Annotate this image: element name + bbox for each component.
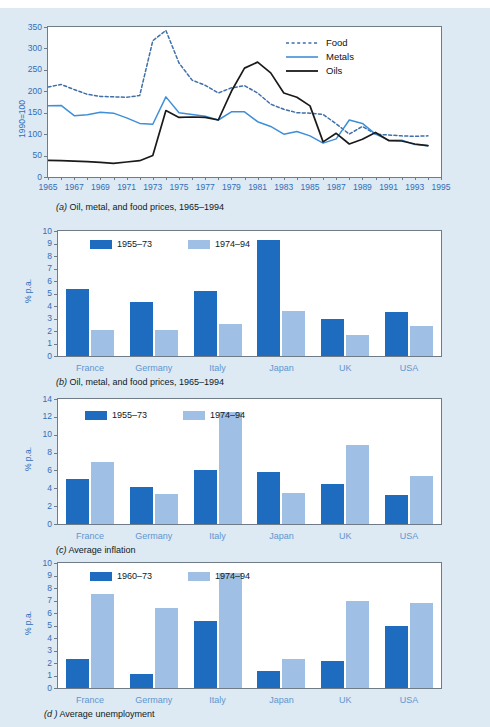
fig-a-caption: (a) Oil, metal, and food prices, 1965–19… — [56, 203, 224, 212]
x-tick-mark — [192, 177, 193, 180]
fig-b-legend: 1955–73 1974–94 — [90, 239, 250, 249]
x-tick-mark — [402, 177, 403, 180]
y-tick-label: 9 — [20, 571, 52, 580]
bar-italy-dark — [194, 470, 217, 524]
legend-label-metals: Metals — [326, 52, 354, 62]
y-tick-label: 300 — [10, 44, 42, 53]
y-tick-label: 8 — [20, 448, 52, 457]
fig-a-legend: Food Metals Oils — [285, 36, 354, 78]
y-tick-label: 7 — [20, 264, 52, 273]
y-tick-label: 10 — [20, 559, 52, 568]
bar-usa-dark — [385, 495, 408, 524]
bar-uk-dark — [321, 484, 344, 524]
x-tick-mark — [114, 177, 115, 180]
legend-item-metals: Metals — [285, 50, 354, 64]
bar-usa-dark — [385, 312, 408, 356]
x-tick-mark — [100, 177, 101, 180]
bar-uk-light — [346, 601, 369, 689]
y-tick-label: 1 — [20, 339, 52, 348]
y-tick-label: 5 — [20, 289, 52, 298]
y-tick-label: 250 — [10, 65, 42, 74]
fig-c-legend: 1955–73 1974–94 — [85, 410, 245, 420]
bar-usa-dark — [385, 626, 408, 689]
bar-japan-dark — [257, 472, 280, 524]
y-tick-label: 6 — [20, 277, 52, 286]
fig-d-caption-label: (d ) — [44, 709, 58, 719]
y-tick-label: 4 — [20, 302, 52, 311]
category-label-usa: USA — [369, 364, 449, 373]
y-tick-label: 8 — [20, 252, 52, 261]
x-tick-mark — [441, 177, 442, 180]
dashed-line-icon — [285, 38, 319, 48]
fig-a-caption-label: (a) — [56, 202, 67, 212]
bar-usa-light — [410, 476, 433, 524]
legend-item-series1: 1960–73 — [90, 571, 152, 581]
bar-italy-light — [219, 412, 242, 524]
y-tick-label: 3 — [20, 646, 52, 655]
x-tick-mark — [218, 177, 219, 180]
fig-b-caption: (b) Oil, metal, and food prices, 1965–19… — [56, 378, 224, 387]
y-tick-label: 10 — [20, 227, 52, 236]
legend-swatch-dark — [90, 572, 112, 581]
y-tick-label: 0 — [20, 352, 52, 361]
y-tick-label: 4 — [20, 634, 52, 643]
x-tick-mark — [284, 177, 285, 180]
bar-uk-dark — [321, 661, 344, 689]
fig-a-series-svg — [48, 27, 441, 177]
bar-japan-light — [282, 311, 305, 356]
y-tick-label: 2 — [20, 659, 52, 668]
y-tick-label: 12 — [20, 412, 52, 421]
x-tick-mark — [258, 177, 259, 180]
legend-label-series2: 1974–94 — [210, 410, 245, 420]
series-line-metals — [48, 97, 428, 146]
bar-japan-light — [282, 659, 305, 688]
fig-c-caption-label: (c) — [56, 545, 67, 555]
x-tick-label: 1995 — [425, 183, 457, 192]
bar-germany-dark — [130, 487, 153, 525]
x-tick-mark — [166, 177, 167, 180]
bar-france-dark — [66, 659, 89, 688]
legend-item-series2: 1974–94 — [183, 410, 245, 420]
bar-uk-light — [346, 445, 369, 525]
figure-c-bar-chart: % p.a. 02468101214 1955–73 1974–94 Franc… — [0, 394, 490, 554]
x-tick-mark — [349, 177, 350, 180]
x-tick-mark — [61, 177, 62, 180]
y-tick-label: 350 — [10, 23, 42, 32]
fig-b-caption-text: Oil, metal, and food prices, 1965–1994 — [70, 377, 225, 387]
bar-japan-light — [282, 493, 305, 524]
series-line-food — [48, 30, 428, 136]
figure-page: 1990=100 050100150200250300350 196519671… — [0, 0, 490, 727]
y-tick-label: 6 — [20, 466, 52, 475]
y-tick-label: 150 — [10, 108, 42, 117]
y-tick-label: 6 — [20, 609, 52, 618]
y-tick-label: 14 — [20, 395, 52, 404]
bar-france-dark — [66, 289, 89, 357]
bar-france-dark — [66, 479, 89, 525]
x-tick-mark — [153, 177, 154, 180]
bar-france-light — [91, 594, 114, 688]
bar-germany-light — [155, 494, 178, 524]
bar-japan-dark — [257, 671, 280, 689]
x-tick-mark — [140, 177, 141, 180]
y-tick-label: 3 — [20, 314, 52, 323]
y-tick-label: 0 — [10, 173, 42, 182]
x-tick-mark — [297, 177, 298, 180]
y-tick-label: 50 — [10, 151, 42, 160]
x-tick-mark — [323, 177, 324, 180]
y-tick-label: 7 — [20, 596, 52, 605]
legend-item-series2: 1974–94 — [188, 239, 250, 249]
fig-a-caption-text: Oil, metal, and food prices, 1965–1994 — [70, 202, 225, 212]
fig-b-caption-label: (b) — [56, 377, 67, 387]
category-label-usa: USA — [369, 532, 449, 541]
fig-c-y-axis-label: % p.a. — [23, 434, 33, 484]
fig-d-caption: (d ) Average unemployment — [44, 710, 154, 719]
y-tick-label: 5 — [20, 621, 52, 630]
fig-b-bars-layer — [58, 231, 441, 356]
x-tick-mark — [389, 177, 390, 180]
x-tick-mark — [271, 177, 272, 180]
x-tick-mark — [74, 177, 75, 180]
legend-item-series1: 1955–73 — [90, 239, 152, 249]
x-tick-mark — [231, 177, 232, 180]
bar-france-light — [91, 462, 114, 524]
fig-d-caption-text: Average unemployment — [60, 709, 155, 719]
